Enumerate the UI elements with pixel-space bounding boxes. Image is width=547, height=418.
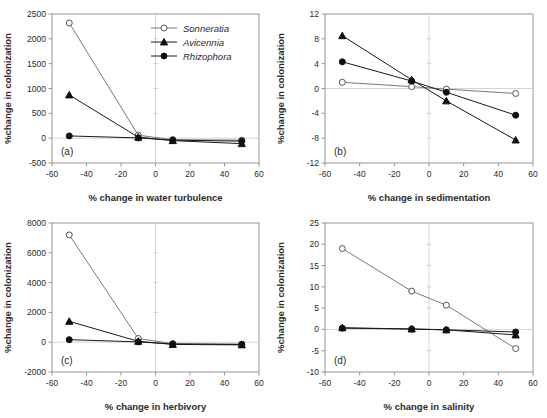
x-tick-label: -60 <box>46 378 59 388</box>
marker-filled-circle <box>239 341 245 347</box>
y-tick-label: -4 <box>311 108 319 118</box>
marker-filled-circle <box>409 326 415 332</box>
marker-open-circle <box>513 346 519 352</box>
legend-marker-filled-circle <box>161 53 167 59</box>
y-tick-label: -5 <box>311 346 319 356</box>
plot-c: -200002000400060008000-60-40-200204060% … <box>0 209 273 418</box>
panel-tag: (b) <box>334 146 346 157</box>
x-axis-title: % change in salinity <box>384 401 476 412</box>
x-axis-title: % change in sedimentation <box>368 192 491 203</box>
marker-open-circle <box>339 79 345 85</box>
x-axis-title: % change in herbivory <box>105 401 207 412</box>
y-tick-label: -12 <box>307 158 320 168</box>
marker-filled-circle <box>513 112 519 118</box>
y-tick-label: 0 <box>41 133 46 143</box>
y-tick-label: 1500 <box>27 59 46 69</box>
panel-b: -12-8-404812-60-40-200204060% change in … <box>273 0 547 209</box>
x-tick-label: 0 <box>427 169 432 179</box>
marker-open-circle <box>409 288 415 294</box>
y-tick-label: 0 <box>41 337 46 347</box>
y-tick-label: 2000 <box>27 34 46 44</box>
legend-marker-open-circle <box>161 25 167 31</box>
plot-b: -12-8-404812-60-40-200204060% change in … <box>273 0 547 209</box>
y-tick-label: 12 <box>310 9 320 19</box>
y-axis-title: %change in colonization <box>275 242 286 353</box>
marker-filled-circle <box>66 133 72 139</box>
y-tick-label: 5 <box>314 303 319 313</box>
marker-open-circle <box>443 302 449 308</box>
panel-a: -50005001000150020002500-60-40-200204060… <box>0 0 273 209</box>
marker-filled-circle <box>239 138 245 144</box>
marker-filled-circle <box>135 339 141 345</box>
y-tick-label: 500 <box>32 108 46 118</box>
legend-label-sonneratia: Sonneratia <box>183 23 229 34</box>
marker-filled-circle <box>339 59 345 65</box>
y-tick-label: 0 <box>314 324 319 334</box>
y-axis-title: %change in colonization <box>2 33 13 144</box>
marker-filled-circle <box>66 337 72 343</box>
x-tick-label: 40 <box>220 378 230 388</box>
marker-filled-circle <box>170 137 176 143</box>
x-tick-label: 20 <box>185 169 195 179</box>
marker-filled-circle <box>443 327 449 333</box>
legend-label-avicennia: Avicennia <box>182 37 224 48</box>
marker-filled-circle <box>443 89 449 95</box>
y-tick-label: 25 <box>310 218 320 228</box>
panel-d: -10-50510152025-60-40-200204060% change … <box>273 209 547 418</box>
marker-filled-circle <box>170 341 176 347</box>
y-tick-label: -500 <box>29 158 46 168</box>
y-tick-label: 15 <box>310 261 320 271</box>
panel-tag: (c) <box>61 355 73 366</box>
x-tick-label: 0 <box>427 378 432 388</box>
x-tick-label: -40 <box>354 378 367 388</box>
marker-open-circle <box>339 246 345 252</box>
x-tick-label: 0 <box>153 169 158 179</box>
x-tick-label: -20 <box>388 169 401 179</box>
x-tick-label: -60 <box>319 378 332 388</box>
marker-open-circle <box>66 232 72 238</box>
y-tick-label: 4000 <box>27 278 46 288</box>
x-tick-label: 60 <box>528 378 538 388</box>
x-tick-label: -60 <box>319 169 332 179</box>
x-tick-label: -20 <box>115 169 128 179</box>
x-tick-label: 20 <box>459 169 469 179</box>
y-tick-label: -10 <box>307 367 320 377</box>
x-tick-label: 60 <box>254 378 264 388</box>
panel-c: -200002000400060008000-60-40-200204060% … <box>0 209 273 418</box>
y-tick-label: -8 <box>311 133 319 143</box>
x-tick-label: 60 <box>528 169 538 179</box>
x-tick-label: 0 <box>153 378 158 388</box>
marker-filled-circle <box>339 325 345 331</box>
marker-open-circle <box>513 90 519 96</box>
x-tick-label: 20 <box>459 378 469 388</box>
panel-tag: (d) <box>334 355 346 366</box>
x-tick-label: 60 <box>254 169 264 179</box>
x-tick-label: 20 <box>185 378 195 388</box>
x-tick-label: -20 <box>388 378 401 388</box>
x-tick-label: 40 <box>494 378 504 388</box>
marker-filled-circle <box>135 135 141 141</box>
y-tick-label: 1000 <box>27 84 46 94</box>
panel-tag: (a) <box>61 146 73 157</box>
y-tick-label: 4 <box>314 59 319 69</box>
y-tick-label: 0 <box>314 84 319 94</box>
x-tick-label: -40 <box>80 378 93 388</box>
marker-filled-circle <box>513 329 519 335</box>
plot-a: -50005001000150020002500-60-40-200204060… <box>0 0 273 209</box>
legend-label-rhizophora: Rhizophora <box>183 51 232 62</box>
y-axis-title: %change in colonization <box>2 242 13 353</box>
x-tick-label: -40 <box>354 169 367 179</box>
y-tick-label: -2000 <box>24 367 46 377</box>
x-tick-label: -40 <box>80 169 93 179</box>
marker-filled-circle <box>409 78 415 84</box>
marker-open-circle <box>66 20 72 26</box>
y-tick-label: 2500 <box>27 9 46 19</box>
figure-multi-panel: -50005001000150020002500-60-40-200204060… <box>0 0 547 418</box>
y-tick-label: 8 <box>314 34 319 44</box>
y-axis-title: %change in colonization <box>275 33 286 144</box>
y-tick-label: 10 <box>310 282 320 292</box>
legend: SonneratiaAvicenniaRhizophora <box>151 23 232 62</box>
x-tick-label: 40 <box>494 169 504 179</box>
y-tick-label: 20 <box>310 239 320 249</box>
x-tick-label: -60 <box>46 169 59 179</box>
